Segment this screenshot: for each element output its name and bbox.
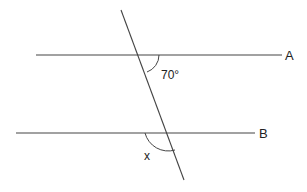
parallel-lines-diagram: A B 70° x [0, 0, 307, 192]
angle-70-label: 70° [161, 68, 179, 82]
line-a-label: A [285, 48, 294, 63]
transversal-line [121, 10, 184, 180]
angle-arc-70 [147, 55, 159, 72]
angle-x-label: x [144, 149, 150, 163]
line-b-label: B [259, 126, 268, 141]
